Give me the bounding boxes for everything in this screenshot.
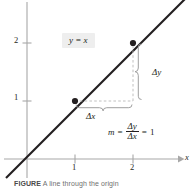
equals-sign-1: =: [118, 127, 123, 137]
figure-container: 2 1 1 2 x y = x Δy Δx m = Δy Δx = 1 FIGU…: [0, 0, 195, 188]
data-point-1-1: [72, 98, 78, 104]
figure-caption-text: A line through the origin: [41, 180, 119, 187]
delta-x-label: Δx: [86, 112, 95, 121]
delta-x-brace: [76, 105, 132, 111]
x-tick-label-2: 2: [130, 163, 134, 172]
equation-callout: y = x: [62, 33, 95, 48]
equation-callout-text: y = x: [69, 35, 88, 45]
slope-formula: m = Δy Δx = 1: [108, 122, 154, 142]
y-tick-label-2: 2: [14, 36, 18, 45]
figure-caption-label: FIGURE: [14, 180, 41, 187]
slope-denominator: Δx: [126, 131, 139, 141]
line-y-equals-x: [6, 0, 195, 178]
x-tick-label-1: 1: [72, 163, 76, 172]
figure-caption: FIGURE A line through the origin: [14, 180, 119, 187]
slope-numerator: Δy: [126, 122, 139, 131]
delta-y-brace: [135, 44, 141, 100]
x-axis-arrowhead: [178, 156, 185, 163]
slope-value: 1: [150, 127, 155, 137]
y-tick-label-1: 1: [14, 93, 18, 102]
equals-sign-2: =: [142, 127, 147, 137]
delta-y-label: Δy: [152, 68, 161, 77]
slope-symbol: m: [108, 127, 115, 137]
slope-fraction: Δy Δx: [126, 122, 139, 142]
x-axis-label: x: [185, 153, 189, 162]
plot-area: [0, 0, 195, 188]
data-point-2-2: [130, 40, 136, 46]
